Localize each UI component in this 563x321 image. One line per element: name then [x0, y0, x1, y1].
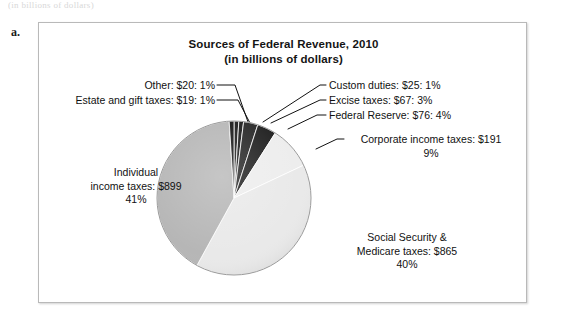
label-federal-reserve: Federal Reserve: $76: 4% [329, 109, 451, 123]
label-social-line1: Social Security & [327, 231, 487, 245]
label-individual-line1: Individual [61, 166, 211, 180]
leader-custom [263, 85, 326, 122]
label-corporate-line1: Corporate income taxes: $191 [346, 133, 516, 147]
label-corporate-income-taxes: Corporate income taxes: $191 9% [346, 133, 516, 160]
label-social-line2: Medicare taxes: $865 [327, 245, 487, 259]
chart-title: Sources of Federal Revenue, 2010 (in bil… [39, 37, 527, 67]
label-individual-income-taxes: Individual income taxes: $899 41% [61, 166, 211, 207]
label-excise-taxes: Excise taxes: $67: 3% [329, 94, 432, 108]
label-custom-duties: Custom duties: $25: 1% [329, 79, 440, 93]
leader-other [217, 85, 248, 122]
label-individual-line2: income taxes: $899 [61, 180, 211, 194]
leader-corporate [316, 139, 344, 149]
label-corporate-line2: 9% [346, 147, 516, 161]
clipped-caption-text: (in billions of dollars) [8, 0, 308, 14]
figure-letter: a. [11, 25, 20, 40]
label-individual-line3: 41% [61, 193, 211, 207]
label-social-line3: 40% [327, 258, 487, 272]
chart-title-main: Sources of Federal Revenue, 2010 [189, 38, 379, 50]
label-estate-and-gift-taxes: Estate and gift taxes: $19: 1% [75, 94, 215, 108]
label-social-security-medicare-taxes: Social Security & Medicare taxes: $865 4… [327, 231, 487, 272]
figure-box: Sources of Federal Revenue, 2010 (in bil… [38, 22, 527, 303]
label-other: Other: $20: 1% [144, 79, 215, 93]
chart-subtitle: (in billions of dollars) [39, 52, 527, 67]
